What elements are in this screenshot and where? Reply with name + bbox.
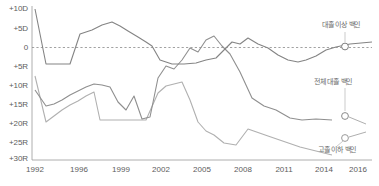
series-line-college-plus (35, 9, 372, 64)
end-marker-all-college (342, 113, 349, 120)
series-line-all-college (35, 36, 332, 120)
leader-line-highschool-or-less (336, 141, 343, 147)
chart-container: +10D +5D 0 +5R +10R +15R +20R +25R +30R … (0, 0, 379, 186)
series-line-highschool-or-less (35, 76, 332, 155)
end-marker-highschool-or-less (342, 135, 349, 142)
chart-plot-svg (0, 0, 379, 186)
end-marker-college-plus (342, 43, 349, 50)
tail-line-highschool-or-less (349, 132, 366, 137)
tail-line-all-college (349, 117, 366, 124)
